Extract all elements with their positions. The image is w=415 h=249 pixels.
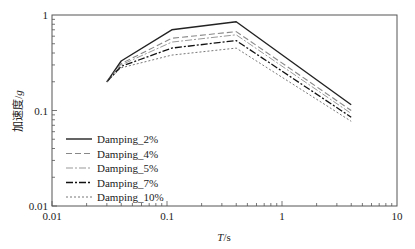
y-tick-label: 0.01 — [29, 200, 48, 212]
legend-label: Damping_2% — [97, 133, 158, 145]
legend-label: Damping_4% — [97, 148, 158, 160]
legend-label: Damping_7% — [97, 177, 158, 189]
y-tick-labels: 0.010.11 — [29, 9, 48, 212]
x-tick-label: 10 — [392, 210, 404, 222]
x-tick-labels: 0.010.1110 — [42, 210, 403, 222]
legend-label: Damping_10% — [97, 191, 164, 203]
series-line-1 — [107, 32, 351, 111]
series-line-0 — [107, 22, 351, 105]
legend-label: Damping_5% — [97, 162, 158, 174]
legend: Damping_2%Damping_4%Damping_5%Damping_7%… — [66, 133, 164, 203]
x-axis-title: T/s — [217, 231, 230, 243]
x-tick-label: 0.1 — [160, 210, 174, 222]
x-tick-label: 1 — [279, 210, 285, 222]
y-axis-title: 加速度/g — [11, 90, 24, 132]
series-lines — [107, 22, 351, 122]
chart: 0.010.1110 0.010.11 T/s 加速度/g Damping_2%… — [0, 0, 415, 249]
y-tick-label: 0.1 — [34, 105, 48, 117]
y-tick-label: 1 — [43, 9, 49, 21]
